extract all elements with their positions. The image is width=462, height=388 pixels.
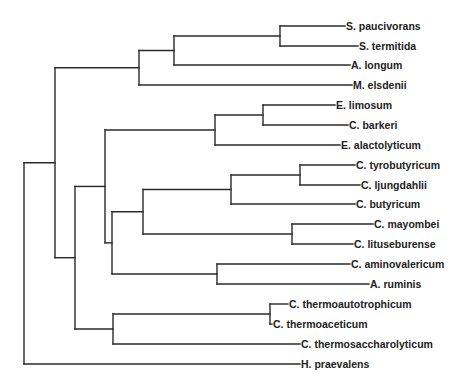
leaf-label-spau: S. paucivorans <box>346 20 421 32</box>
leaf-label-ster: S. termitida <box>359 40 416 52</box>
leaf-label-mels: M. elsdenii <box>353 79 407 91</box>
leaf-label-hpra: H. praevalens <box>301 358 369 370</box>
leaf-label-cbar: C. barkeri <box>349 119 397 131</box>
leaf-label-arum: A. ruminis <box>370 278 421 290</box>
leaf-label-cthe: C. thermoaceticum <box>273 318 368 330</box>
leaf-label-eala: E. alactolyticum <box>341 139 421 151</box>
leaf-label-alon: A. longum <box>351 59 402 71</box>
leaf-label-elim: E. limosum <box>336 99 392 111</box>
leaf-label-cami: C. aminovalericum <box>351 258 444 270</box>
leaf-label-clju: C. ljungdahlii <box>361 179 427 191</box>
leaf-label-clit: C. lituseburense <box>354 238 436 250</box>
leaf-label-cbut: C. butyricum <box>356 198 420 210</box>
leaf-label-cths: C. thermosaccharolyticum <box>301 338 433 350</box>
leaf-label-ctha: C. thermoautotrophicum <box>289 298 412 310</box>
leaf-label-ctyr: C. tyrobutyricum <box>356 159 440 171</box>
leaf-label-cmay: C. mayombei <box>374 218 439 230</box>
